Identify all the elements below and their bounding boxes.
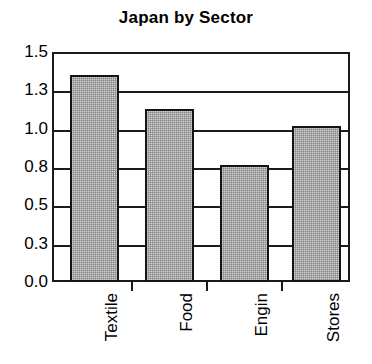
y-axis-tick-label: 0.5 — [2, 196, 48, 213]
y-axis-tick-label: 1.0 — [2, 120, 48, 137]
x-axis-tick — [131, 282, 133, 291]
bar-chart: Japan by Sector 1.51.31.00.80.50.30.0 Te… — [0, 0, 372, 364]
chart-title: Japan by Sector — [0, 8, 372, 28]
x-axis-tick — [281, 282, 283, 291]
x-axis-tick-label: Food — [178, 293, 195, 332]
y-axis-tick-label: 1.3 — [2, 81, 48, 98]
bar-engin — [220, 165, 269, 282]
y-axis-tick-label: 0.8 — [2, 158, 48, 175]
x-axis-tick-label: Stores — [325, 293, 342, 342]
x-axis-tick — [206, 282, 208, 291]
y-axis-tick-label: 0.0 — [2, 273, 48, 290]
y-axis-tick-label: 0.3 — [2, 235, 48, 252]
y-axis-tick-label: 1.5 — [2, 43, 48, 60]
x-axis-tick-label: Engin — [253, 293, 270, 336]
bar-food — [145, 109, 194, 282]
x-axis-tick-label: Textile — [103, 293, 120, 341]
bar-textile — [70, 75, 119, 282]
bar-stores — [292, 126, 341, 282]
y-axis: 1.51.31.00.80.50.30.0 — [0, 0, 48, 364]
